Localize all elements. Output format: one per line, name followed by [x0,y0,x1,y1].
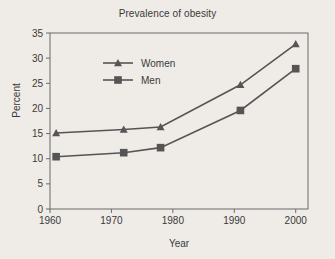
legend-label-men: Men [141,75,160,86]
legend-label-women: Women [141,58,175,69]
data-point-women [292,40,300,47]
x-tick-label: 1970 [100,215,123,226]
plot-frame [50,33,308,209]
data-series-group [52,40,300,160]
x-tick-label: 2000 [285,215,308,226]
y-tick-label: 35 [32,28,44,39]
data-point-men [157,144,165,152]
x-tick-label: 1960 [39,215,62,226]
data-point-men [52,153,60,161]
y-axis-ticks: 05101520253035 [32,28,50,215]
chart-legend: WomenMen [103,58,175,86]
y-tick-label: 20 [32,103,44,114]
data-point-men [292,65,300,73]
y-tick-label: 5 [37,178,43,189]
data-point-men [120,149,128,157]
series-line-women [56,44,296,133]
y-tick-label: 10 [32,153,44,164]
legend-marker-men [114,76,122,84]
series-line-men [56,69,296,157]
data-point-men [237,107,245,115]
y-tick-label: 15 [32,128,44,139]
chart-figure: Prevalence of obesity Percent Year 05101… [0,0,335,259]
y-tick-label: 0 [37,204,43,215]
x-axis-ticks: 19601970198019902000 [39,209,307,226]
y-tick-label: 30 [32,53,44,64]
x-tick-label: 1980 [162,215,185,226]
x-tick-label: 1990 [223,215,246,226]
y-tick-label: 25 [32,78,44,89]
plot-area: 05101520253035 19601970198019902000 Wome… [0,0,335,259]
